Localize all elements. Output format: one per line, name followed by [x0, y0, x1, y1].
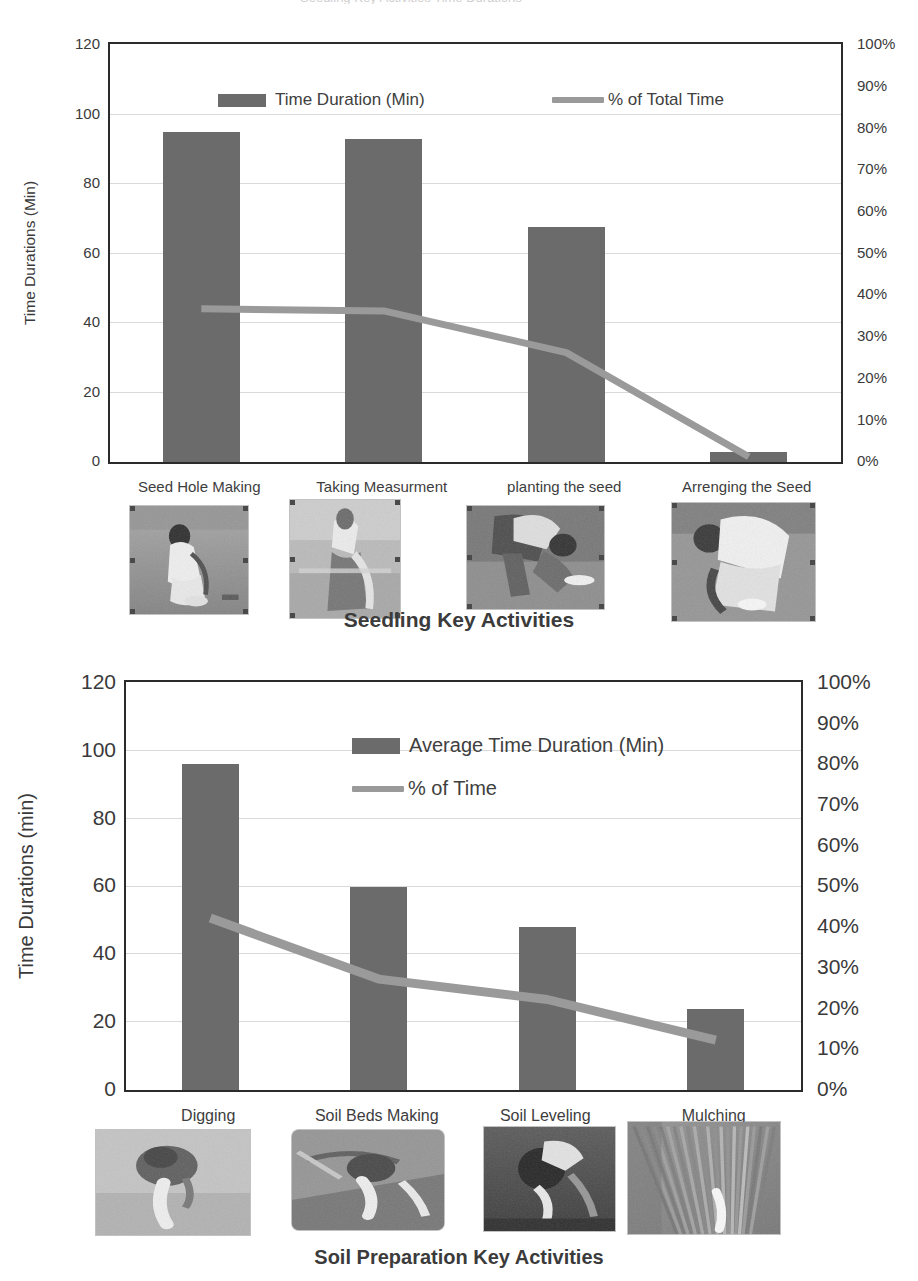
image-resize-handle[interactable]: [395, 557, 400, 562]
image-resize-handle[interactable]: [130, 558, 135, 563]
category-label: Arrenging the Seed: [647, 478, 847, 495]
image-resize-handle[interactable]: [290, 500, 295, 505]
image-resize-handle[interactable]: [243, 506, 248, 511]
thumbnail-mulching: [628, 1122, 780, 1234]
category-label: planting the seed: [464, 478, 664, 495]
y-axis-tick-right: 20%: [857, 370, 887, 385]
image-resize-handle[interactable]: [467, 506, 472, 511]
y-axis-tick-left: 20: [48, 384, 100, 399]
image-resize-handle[interactable]: [599, 506, 604, 511]
legend-label: % of Total Time: [608, 90, 724, 110]
legend-line-swatch-icon: [352, 786, 404, 792]
thumbnail-seed-hole-making: [130, 506, 248, 614]
legend-label: Time Duration (Min): [275, 90, 425, 110]
y-axis-tick-right: 10%: [857, 412, 887, 427]
y-axis-tick-left: 120: [48, 36, 100, 51]
legend-item-line: % of Time: [352, 777, 497, 800]
y-axis-tick-right: 40%: [857, 286, 887, 301]
y-axis-tick-right: 0%: [817, 1078, 847, 1099]
y-axis-tick-left: 40: [64, 942, 116, 963]
y-axis-tick-right: 50%: [857, 245, 887, 260]
thumbnail-planting-the-seed: [467, 506, 604, 609]
legend-bar-swatch-icon: [352, 738, 400, 754]
y-axis-tick-right: 70%: [857, 161, 887, 176]
image-resize-handle[interactable]: [599, 555, 604, 560]
y-axis-tick-right: 70%: [817, 793, 859, 814]
x-axis-title-soil-preparation: Soil Preparation Key Activities: [0, 1246, 918, 1269]
legend-label: % of Time: [408, 777, 497, 800]
category-label: Taking Measurment: [282, 478, 482, 495]
x-axis-title-seedling: Seedling Key Activities: [0, 608, 918, 636]
y-axis-title: Time Durations (min): [15, 793, 38, 979]
y-axis-tick-left: 120: [64, 671, 116, 692]
figure-soil-preparation: 0204060801001200%10%20%30%40%50%60%70%80…: [0, 652, 918, 1281]
y-axis-tick-right: 90%: [857, 78, 887, 93]
y-axis-title: Time Durations (Min): [21, 181, 39, 325]
y-axis-tick-right: 60%: [857, 203, 887, 218]
legend-item-bar: Average Time Duration (Min): [352, 734, 664, 757]
legend-bar-swatch-icon: [218, 94, 266, 107]
y-axis-tick-left: 80: [64, 807, 116, 828]
category-label: Seed Hole Making: [99, 478, 299, 495]
image-resize-handle[interactable]: [672, 503, 677, 508]
image-resize-handle[interactable]: [290, 557, 295, 562]
y-axis-tick-left: 100: [48, 106, 100, 121]
y-axis-tick-right: 80%: [857, 120, 887, 135]
y-axis-tick-left: 60: [48, 245, 100, 260]
image-resize-handle[interactable]: [130, 506, 135, 511]
y-axis-tick-left: 80: [48, 175, 100, 190]
y-axis-tick-right: 80%: [817, 752, 859, 773]
thumbnail-taking-measurment: [290, 500, 400, 618]
plot-wrapper-soil-preparation: 0204060801001200%10%20%30%40%50%60%70%80…: [0, 652, 918, 1281]
plot-wrapper-seedling: 0204060801001200%10%20%30%40%50%60%70%80…: [0, 0, 918, 650]
y-axis-tick-right: 30%: [857, 328, 887, 343]
thumbnail-digging: [96, 1130, 250, 1235]
y-axis-tick-right: 0%: [857, 453, 879, 468]
y-axis-tick-right: 60%: [817, 834, 859, 855]
image-resize-handle[interactable]: [467, 555, 472, 560]
y-axis-tick-right: 20%: [817, 997, 859, 1018]
image-resize-handle[interactable]: [672, 560, 677, 565]
image-resize-handle[interactable]: [810, 503, 815, 508]
y-axis-tick-left: 60: [64, 874, 116, 895]
y-axis-tick-left: 0: [64, 1078, 116, 1099]
y-axis-tick-right: 100%: [817, 671, 871, 692]
legend-label: Average Time Duration (Min): [409, 734, 664, 757]
y-axis-tick-left: 40: [48, 314, 100, 329]
y-axis-tick-right: 50%: [817, 874, 859, 895]
legend-item-bar: Time Duration (Min): [218, 90, 425, 110]
image-resize-handle[interactable]: [395, 500, 400, 505]
y-axis-tick-right: 30%: [817, 956, 859, 977]
figure-seedling-key-activities: Seedling Key Activities Time Durations 0…: [0, 0, 918, 650]
thumbnail-soil-beds-making: [292, 1130, 444, 1230]
y-axis-tick-right: 40%: [817, 915, 859, 936]
y-axis-tick-right: 10%: [817, 1037, 859, 1058]
image-resize-handle[interactable]: [243, 558, 248, 563]
legend-line-swatch-icon: [552, 97, 604, 103]
y-axis-tick-left: 0: [48, 453, 100, 468]
y-axis-tick-right: 90%: [817, 712, 859, 733]
legend-item-line: % of Total Time: [552, 90, 724, 110]
y-axis-tick-left: 100: [64, 739, 116, 760]
y-axis-tick-left: 20: [64, 1010, 116, 1031]
thumbnail-soil-leveling: [484, 1127, 615, 1231]
thumbnail-arrenging-the-seed: [672, 503, 815, 621]
image-resize-handle[interactable]: [810, 560, 815, 565]
y-axis-tick-right: 100%: [857, 36, 895, 51]
